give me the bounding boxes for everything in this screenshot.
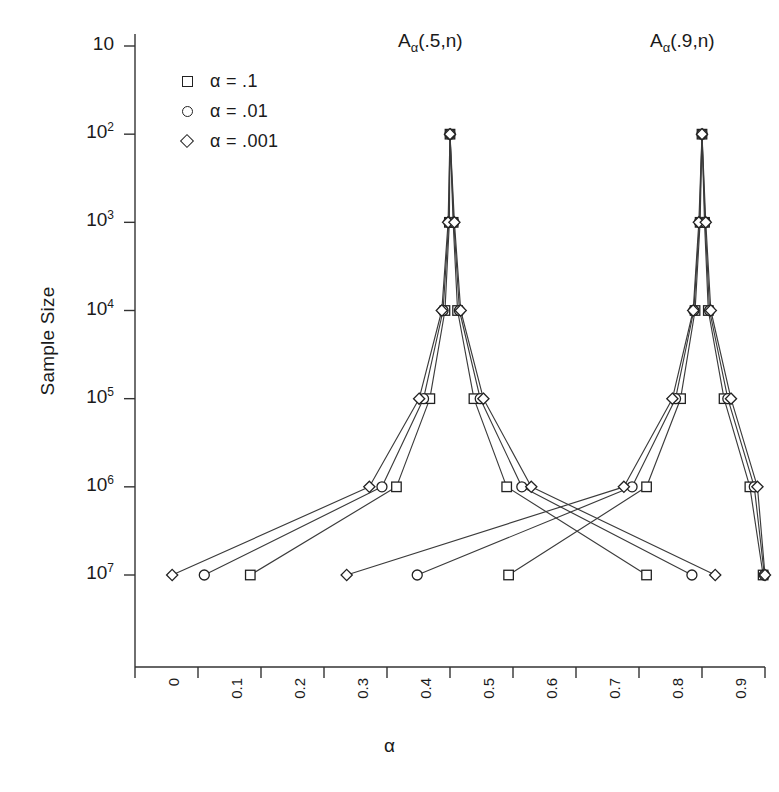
- series-line: [347, 134, 765, 575]
- x-tick-label: 0.6: [543, 678, 560, 738]
- data-point-marker: [504, 570, 513, 580]
- y-tick-label: 10: [42, 33, 114, 55]
- x-tick-label: 0.3: [354, 678, 371, 738]
- figure-container: Sample Size 10710610510410310210 00.10.2…: [0, 0, 779, 792]
- x-tick-label: 0.9: [732, 678, 749, 738]
- series-line: [172, 134, 715, 575]
- data-point-marker: [412, 570, 422, 580]
- legend-item[interactable]: α = .01: [176, 96, 278, 126]
- x-tick-label: 0.8: [669, 678, 686, 738]
- y-tick-label: 107: [42, 562, 114, 584]
- y-tick-label: 106: [42, 474, 114, 496]
- data-point-marker: [246, 570, 256, 580]
- data-point-marker: [341, 569, 352, 580]
- diamond-marker-icon: [176, 130, 198, 152]
- y-tick-label: 103: [42, 209, 114, 231]
- chart-legend: α = .1α = .01α = .001: [176, 66, 278, 156]
- y-tick-label: 104: [42, 298, 114, 320]
- data-point-marker: [642, 482, 652, 492]
- data-point-marker: [710, 569, 721, 580]
- x-axis-ticks: [135, 667, 765, 678]
- legend-item-label: α = .1: [210, 71, 258, 92]
- peak-annotation: Aα(.9,n): [650, 30, 715, 52]
- data-point-marker: [502, 482, 512, 492]
- data-point-marker: [687, 570, 697, 580]
- data-point-marker: [167, 569, 178, 580]
- y-tick-label-group: 10710610510410310210: [0, 0, 128, 792]
- legend-item-label: α = .01: [210, 101, 268, 122]
- data-point-marker: [377, 482, 387, 492]
- data-point-marker: [392, 482, 402, 492]
- data-point-marker: [199, 570, 209, 580]
- peak-annotation: Aα(.5,n): [398, 30, 463, 52]
- x-tick-label: 0.7: [606, 678, 623, 738]
- x-axis-title: α: [0, 735, 779, 757]
- chart-series: [167, 129, 721, 581]
- data-point-marker: [618, 481, 629, 492]
- series-line: [509, 134, 764, 575]
- x-tick-label: 0.4: [417, 678, 434, 738]
- legend-item-label: α = .001: [210, 131, 278, 152]
- square-marker-icon: [176, 70, 198, 92]
- x-tick-label: 0: [165, 678, 182, 738]
- y-tick-label: 102: [42, 121, 114, 143]
- x-tick-label: 0.2: [291, 678, 308, 738]
- x-tick-label: 0.1: [228, 678, 245, 738]
- legend-item[interactable]: α = .1: [176, 66, 278, 96]
- data-point-marker: [642, 570, 652, 580]
- chart-series: [341, 129, 771, 581]
- circle-marker-icon: [176, 100, 198, 122]
- y-tick-label: 105: [42, 386, 114, 408]
- x-tick-label: 0.5: [480, 678, 497, 738]
- legend-item[interactable]: α = .001: [176, 126, 278, 156]
- data-point-marker: [526, 481, 537, 492]
